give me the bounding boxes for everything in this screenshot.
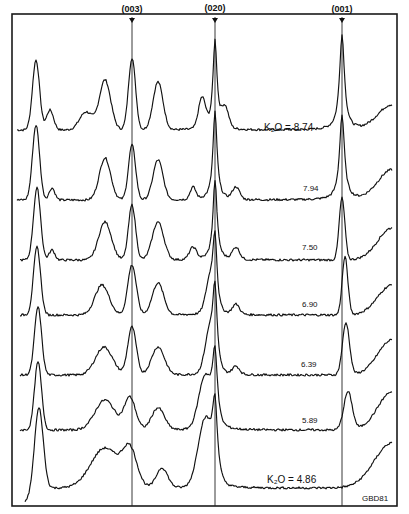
- trace-label-874: K₂O = 8.74: [264, 122, 314, 133]
- peak-label-020: (020): [204, 3, 225, 13]
- trace-group: [17, 35, 392, 502]
- arrow-003-icon: [129, 18, 135, 23]
- trace-line: [17, 111, 392, 201]
- peak-label-001: (001): [331, 4, 352, 14]
- trace-line: [20, 181, 392, 262]
- arrow-001-icon: [339, 18, 345, 23]
- trace-label-794: 7.94: [303, 184, 319, 193]
- trace-label-750: 7.50: [302, 243, 318, 252]
- arrow-020-icon: [212, 18, 218, 23]
- trace-line: [20, 346, 392, 431]
- trace-label-486: K₂O = 4.86: [267, 474, 317, 485]
- trace-label-639: 6.39: [301, 360, 317, 369]
- figure-code: GBD81: [362, 494, 389, 503]
- trace-label-690: 6.90: [302, 300, 318, 309]
- trace-line: [20, 231, 392, 316]
- trace-line: [25, 394, 392, 502]
- peak-label-003: (003): [121, 4, 142, 14]
- xrd-stacked-chart: (003) (020) (001) K₂O = 8.74 7.94 7.50 6…: [0, 0, 409, 514]
- trace-label-589: 5.89: [302, 416, 318, 425]
- trace-line: [20, 281, 392, 376]
- trace-line: [17, 35, 392, 131]
